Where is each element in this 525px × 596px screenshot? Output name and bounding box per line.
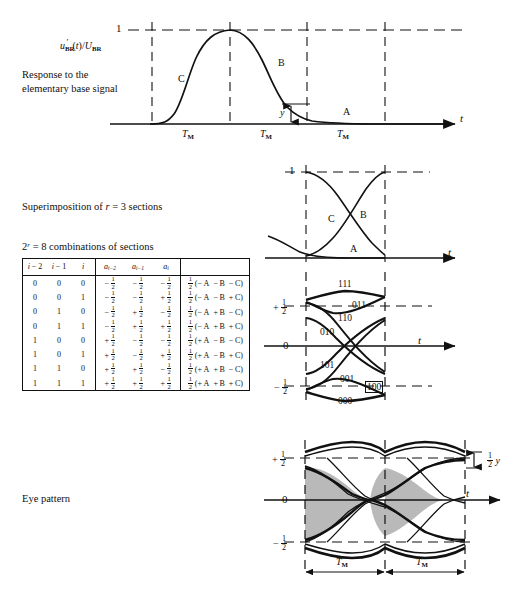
table-cell-amplitude: − 12 bbox=[124, 276, 152, 291]
combinations-trace-label-001: 001 bbox=[340, 374, 354, 384]
table-row: 101+ 12− 12+ 1212 (+ A − B + C) bbox=[23, 347, 250, 361]
table-header-bit-1: i − 1 bbox=[47, 259, 71, 276]
table-cell-amplitude: + 12 bbox=[96, 333, 125, 347]
eye-opening-shade-2 bbox=[385, 468, 443, 536]
response-caption-line-2: elementary base signal bbox=[22, 82, 172, 96]
table-header-expression bbox=[181, 259, 250, 276]
combinations-trace-label-100-boxed: 100 bbox=[365, 381, 383, 393]
table-cell-amplitude: − 12 bbox=[152, 362, 181, 376]
combinations-trace-label-110: 110 bbox=[338, 313, 352, 323]
table-cell-bit: 0 bbox=[71, 362, 96, 376]
table-cell-amplitude: + 12 bbox=[124, 362, 152, 376]
table-cell-bit: 1 bbox=[71, 290, 96, 304]
eye-pattern-y-tick-minus-half: − 12 bbox=[273, 535, 287, 552]
combinations-y-tick-plus-half: + 12 bbox=[273, 299, 287, 316]
combinations-trace-label-111: 111 bbox=[338, 279, 352, 289]
table-cell-amplitude: − 12 bbox=[96, 319, 125, 333]
eye-pattern-segment-tm-2: TM bbox=[416, 556, 428, 568]
eye-pattern-y-tick-plus-half: + 12 bbox=[272, 451, 286, 468]
table-cell-bit: 0 bbox=[71, 305, 96, 319]
response-curve-label-a: A bbox=[343, 106, 350, 117]
response-segment-tm-3: TM bbox=[337, 128, 349, 140]
table-cell-amplitude: − 12 bbox=[152, 276, 181, 291]
table-cell-expression: 12 (− A + B − C) bbox=[181, 305, 250, 319]
table-cell-expression: 12 (+ A + B − C) bbox=[181, 362, 250, 376]
superimposition-y-tick: 1 bbox=[289, 164, 295, 176]
table-cell-bit: 0 bbox=[71, 276, 96, 291]
table-cell-bit: 1 bbox=[23, 362, 48, 376]
table-cell-bit: 0 bbox=[47, 276, 71, 291]
combinations-plot bbox=[264, 272, 455, 401]
superimposition-curve-label-b: B bbox=[360, 209, 367, 220]
response-curve-label-b: B bbox=[278, 57, 285, 68]
combinations-trace-label-010: 010 bbox=[320, 327, 334, 337]
table-cell-bit: 1 bbox=[71, 376, 96, 391]
table-cell-amplitude: + 12 bbox=[96, 362, 125, 376]
table-header-bit-0: i − 2 bbox=[23, 259, 48, 276]
table-cell-amplitude: + 12 bbox=[152, 376, 181, 391]
eye-pattern-caption: Eye pattern bbox=[22, 492, 172, 506]
table-row: 010− 12+ 12− 1212 (− A + B − C) bbox=[23, 305, 250, 319]
table-cell-amplitude: + 12 bbox=[152, 319, 181, 333]
table-cell-bit: 1 bbox=[47, 376, 71, 391]
table-cell-bit: 0 bbox=[23, 276, 48, 291]
table-cell-amplitude: − 12 bbox=[96, 290, 125, 304]
combinations-caption: 2r = 8 combinations of sections bbox=[22, 238, 242, 254]
table-cell-amplitude: − 12 bbox=[96, 276, 125, 291]
response-x-axis-label: t bbox=[460, 112, 463, 124]
table-cell-amplitude: − 12 bbox=[152, 305, 181, 319]
eye-pattern-plot bbox=[264, 440, 500, 572]
table-cell-bit: 1 bbox=[71, 347, 96, 361]
table-cell-bit: 1 bbox=[47, 362, 71, 376]
table-header-a-0: ai−2 bbox=[96, 259, 125, 276]
table-cell-expression: 12 (+ A + B + C) bbox=[181, 376, 250, 391]
table-cell-bit: 1 bbox=[23, 376, 48, 391]
table-cell-expression: 12 (− A − B − C) bbox=[181, 276, 250, 291]
combinations-y-tick-zero: 0 bbox=[283, 339, 289, 351]
response-y-axis-label: uBR′(t)/UBR bbox=[60, 40, 101, 52]
table-cell-amplitude: + 12 bbox=[152, 290, 181, 304]
table-cell-amplitude: + 12 bbox=[96, 376, 125, 391]
superimposition-curve-label-a: A bbox=[350, 243, 357, 254]
table-cell-bit: 1 bbox=[71, 319, 96, 333]
table-header-bit-2: i bbox=[71, 259, 96, 276]
combinations-trace-label-000: 000 bbox=[338, 396, 352, 406]
table-cell-amplitude: − 12 bbox=[124, 333, 152, 347]
table-cell-bit: 0 bbox=[47, 290, 71, 304]
combinations-x-axis-label: t bbox=[418, 334, 421, 346]
table-cell-bit: 0 bbox=[71, 333, 96, 347]
table-cell-bit: 0 bbox=[23, 305, 48, 319]
eye-pattern-y-tick-zero: 0 bbox=[282, 493, 288, 505]
table-cell-amplitude: + 12 bbox=[152, 347, 181, 361]
table-cell-expression: 12 (+ A − B + C) bbox=[181, 347, 250, 361]
superimposition-curve-label-c: C bbox=[328, 213, 335, 224]
eye-opening-shade-1 bbox=[305, 468, 370, 540]
table-cell-bit: 0 bbox=[47, 347, 71, 361]
response-curve-label-c: C bbox=[178, 73, 185, 84]
table-cell-amplitude: + 12 bbox=[124, 319, 152, 333]
response-caption: Response to the elementary base signal bbox=[22, 68, 172, 96]
response-y-tick: 1 bbox=[116, 22, 122, 34]
table-cell-amplitude: + 12 bbox=[124, 376, 152, 391]
response-amplitude-marker: y bbox=[280, 107, 284, 118]
table-cell-bit: 0 bbox=[23, 290, 48, 304]
table-header-a-1: ai−1 bbox=[124, 259, 152, 276]
table-cell-amplitude: + 12 bbox=[96, 347, 125, 361]
table-row: 110+ 12+ 12− 1212 (+ A + B − C) bbox=[23, 362, 250, 376]
eye-pattern-segment-tm-1: TM bbox=[336, 556, 348, 568]
table-row: 100+ 12− 12− 1212 (+ A − B − C) bbox=[23, 333, 250, 347]
table-cell-bit: 1 bbox=[47, 305, 71, 319]
superimposition-x-axis-label: t bbox=[448, 246, 451, 258]
combinations-table: i − 2 i − 1 i ai−2 ai−1 ai 000− 12− 12− … bbox=[22, 258, 250, 391]
table-cell-expression: 12 (− A − B + C) bbox=[181, 290, 250, 304]
eye-pattern-x-axis-label: t bbox=[466, 487, 469, 499]
table-header-row: i − 2 i − 1 i ai−2 ai−1 ai bbox=[23, 259, 250, 276]
table-cell-amplitude: − 12 bbox=[152, 333, 181, 347]
table-cell-bit: 1 bbox=[23, 347, 48, 361]
table-cell-bit: 1 bbox=[47, 319, 71, 333]
eye-pattern-opening-marker: 12 y bbox=[487, 452, 500, 469]
table-row: 111+ 12+ 12+ 1212 (+ A + B + C) bbox=[23, 376, 250, 391]
table-cell-expression: 12 (− A + B + C) bbox=[181, 319, 250, 333]
table-row: 001− 12− 12+ 1212 (− A − B + C) bbox=[23, 290, 250, 304]
table-cell-expression: 12 (+ A − B − C) bbox=[181, 333, 250, 347]
